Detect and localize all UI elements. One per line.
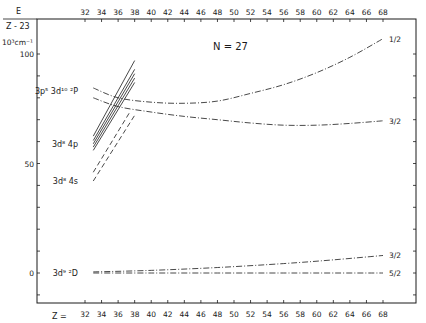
x-tick-label: 40 <box>146 310 156 319</box>
state-group-label: 3p⁵ 3d¹⁰ ²P <box>35 87 78 96</box>
y-label-top: E <box>16 7 21 16</box>
series-line <box>93 69 134 140</box>
x-tick-label: 68 <box>378 310 388 319</box>
x-tick-label: 48 <box>213 310 223 319</box>
chart-title: N = 27 <box>213 41 248 52</box>
x-tick-label: 32 <box>80 310 90 319</box>
series-end-label: 1/2 <box>389 35 401 44</box>
x-tick-label: 64 <box>345 310 355 319</box>
x-label: Z = <box>52 312 67 321</box>
x-tick-label: 60 <box>312 310 322 319</box>
x-tick-label: 54 <box>262 310 272 319</box>
x-tick-label: 60 <box>312 8 322 17</box>
x-tick-label: 64 <box>345 8 355 17</box>
series-end-label: 3/2 <box>389 251 401 260</box>
plot-frame <box>37 19 416 303</box>
x-tick-label: 58 <box>295 310 305 319</box>
y-tick-label: 50 <box>24 160 34 169</box>
x-tick-label: 42 <box>163 8 173 17</box>
x-tick-label: 38 <box>130 310 140 319</box>
x-tick-label: 38 <box>130 8 140 17</box>
y-tick-label: 0 <box>29 269 34 278</box>
series-end-label: 5/2 <box>389 269 401 278</box>
x-tick-label: 54 <box>262 8 272 17</box>
y-axis: 050100 <box>20 50 416 295</box>
series-line <box>93 78 134 147</box>
x-tick-label: 52 <box>246 8 256 17</box>
x-axis-top: 32343638404244464850525456586062646668 <box>80 8 388 22</box>
x-tick-label: 66 <box>362 8 372 17</box>
x-tick-label: 50 <box>229 310 239 319</box>
chart: 32343638404244464850525456586062646668 3… <box>0 0 426 323</box>
series-end-label: 3/2 <box>389 117 401 126</box>
x-tick-label: 32 <box>80 8 90 17</box>
series-line <box>93 82 134 150</box>
x-tick-label: 56 <box>279 310 289 319</box>
x-tick-label: 44 <box>180 8 190 17</box>
y-label-bottom: Z - 23 <box>6 22 30 31</box>
x-tick-label: 36 <box>113 310 123 319</box>
x-tick-label: 56 <box>279 8 289 17</box>
x-tick-label: 34 <box>97 8 107 17</box>
x-tick-label: 40 <box>146 8 156 17</box>
x-tick-label: 50 <box>229 8 239 17</box>
y-unit: 10³cm⁻¹ <box>2 38 33 47</box>
x-tick-label: 44 <box>180 310 190 319</box>
x-tick-label: 62 <box>329 8 339 17</box>
x-tick-label: 58 <box>295 8 305 17</box>
state-group-label: 3d⁸ 4p <box>52 140 78 149</box>
x-tick-label: 66 <box>362 310 372 319</box>
state-group-label: 3d⁹ ²D <box>53 269 78 278</box>
x-tick-label: 46 <box>196 8 206 17</box>
x-tick-label: 34 <box>97 310 107 319</box>
x-tick-label: 48 <box>213 8 223 17</box>
state-group-label: 3d⁸ 4s <box>53 177 78 186</box>
series-line <box>93 255 383 271</box>
x-tick-label: 52 <box>246 310 256 319</box>
x-tick-label: 36 <box>113 8 123 17</box>
y-tick-label: 100 <box>20 50 35 59</box>
series-lines: 1/23/23/25/2 <box>93 35 401 278</box>
plot-border <box>37 19 416 303</box>
series-line <box>93 98 383 126</box>
annotations: 3p⁵ 3d¹⁰ ²P3d⁸ 4p3d⁸ 4s3d⁹ ²D <box>35 87 78 278</box>
x-tick-label: 68 <box>378 8 388 17</box>
x-tick-label: 46 <box>196 310 206 319</box>
x-tick-label: 62 <box>329 310 339 319</box>
x-tick-label: 42 <box>163 310 173 319</box>
